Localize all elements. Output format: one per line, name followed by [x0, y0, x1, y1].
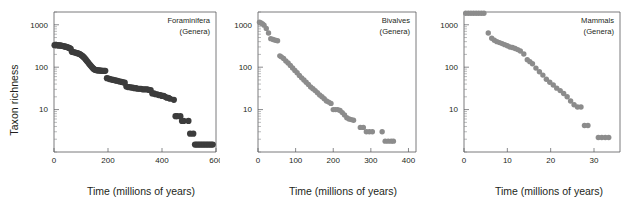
svg-text:1000: 1000 [440, 21, 458, 30]
svg-text:0: 0 [256, 156, 261, 165]
y-axis-label-text: Taxon richness [8, 64, 20, 135]
panel-subtitle: (Genera) [584, 27, 615, 36]
y-axis-label: Taxon richness [6, 0, 22, 199]
svg-text:100: 100 [289, 156, 303, 165]
x-axis-label-mammals: Time (millions of years) [434, 185, 634, 197]
svg-text:10: 10 [243, 105, 252, 114]
svg-text:0: 0 [52, 156, 57, 165]
svg-text:100: 100 [445, 63, 459, 72]
x-axis-label-bivalves: Time (millions of years) [228, 185, 442, 197]
scatter-plot-mammals: 1010010000102030Mammals(Genera) [434, 0, 632, 175]
plot-area-bivalves: 1010010000100200300400Bivalves(Genera) [228, 0, 426, 199]
svg-text:1000: 1000 [30, 21, 48, 30]
svg-text:200: 200 [327, 156, 341, 165]
svg-text:10: 10 [449, 105, 458, 114]
panel-subtitle: (Genera) [180, 27, 211, 36]
svg-text:10: 10 [39, 105, 48, 114]
svg-text:100: 100 [35, 63, 49, 72]
svg-text:600: 600 [209, 156, 220, 165]
svg-text:20: 20 [546, 156, 555, 165]
panel-title: Bivalves [382, 16, 410, 25]
chart-panel-foraminifera: 1010010000200400600Foraminifera(Genera) … [22, 0, 220, 199]
chart-panel-mammals: 1010010000102030Mammals(Genera) Time (mi… [434, 0, 632, 199]
data-points [51, 42, 215, 148]
svg-text:10: 10 [503, 156, 512, 165]
panel-subtitle: (Genera) [380, 27, 411, 36]
chart-panel-bivalves: 1010010000100200300400Bivalves(Genera) T… [228, 0, 426, 199]
panel-title: Mammals [581, 16, 614, 25]
plot-area-foraminifera: 1010010000200400600Foraminifera(Genera) [22, 0, 220, 199]
plot-area-mammals: 1010010000102030Mammals(Genera) [434, 0, 632, 199]
data-points [257, 19, 396, 143]
svg-text:400: 400 [402, 156, 416, 165]
scatter-plot-bivalves: 1010010000100200300400Bivalves(Genera) [228, 0, 426, 175]
svg-text:200: 200 [101, 156, 115, 165]
svg-text:0: 0 [462, 156, 467, 165]
figure-taxon-richness-decay: Taxon richness 1010010000200400600Forami… [0, 0, 634, 199]
svg-text:400: 400 [155, 156, 169, 165]
svg-text:1000: 1000 [234, 21, 252, 30]
svg-text:300: 300 [364, 156, 378, 165]
svg-text:30: 30 [590, 156, 599, 165]
x-axis-label-foraminifera: Time (millions of years) [22, 185, 240, 197]
scatter-plot-foraminifera: 1010010000200400600Foraminifera(Genera) [22, 0, 220, 175]
panel-title: Foraminifera [167, 16, 210, 25]
svg-text:100: 100 [239, 63, 253, 72]
